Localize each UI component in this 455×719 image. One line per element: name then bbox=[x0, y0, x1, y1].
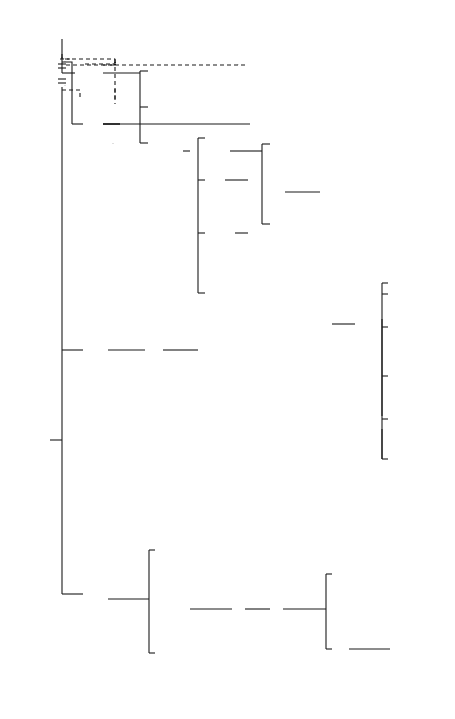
family-tree-diagram bbox=[0, 0, 455, 719]
dashed-connectors bbox=[66, 65, 248, 100]
tree-connectors bbox=[50, 39, 390, 653]
tree-canvas bbox=[0, 0, 455, 719]
